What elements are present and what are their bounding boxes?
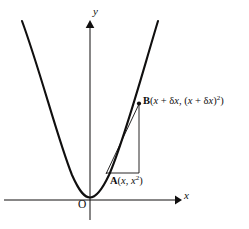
point-b-marker <box>137 101 141 105</box>
point-b-paren-close: ) <box>220 95 224 106</box>
point-b-plus2: + <box>192 95 203 106</box>
point-b-label: B(x + δx, (x + δx)2) <box>143 96 224 107</box>
x-axis-arrow-icon <box>175 196 182 205</box>
point-b-plus1: + <box>158 95 169 106</box>
point-a-name: A <box>110 175 118 186</box>
y-axis-label: y <box>93 6 98 17</box>
figure-canvas <box>0 0 249 229</box>
point-b-name: B <box>143 95 150 106</box>
parabola-secant-figure: y x O A(x, x2) B(x + δx, (x + δx)2) <box>0 0 249 229</box>
origin-label: O <box>78 199 86 211</box>
point-a-label: A(x, x2) <box>110 176 143 187</box>
y-axis-arrow-icon <box>86 20 95 28</box>
x-axis-label: x <box>184 190 189 201</box>
point-a-paren-close: ) <box>139 175 143 186</box>
